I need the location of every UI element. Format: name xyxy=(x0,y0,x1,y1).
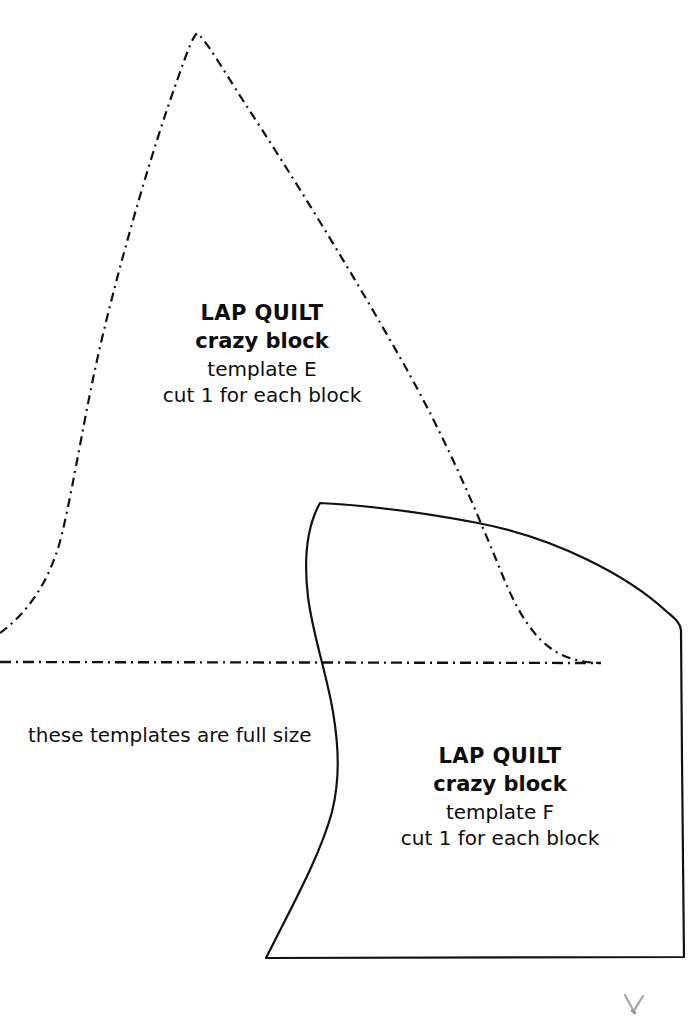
template-f-label-block: LAP QUILT crazy block template F cut 1 f… xyxy=(300,746,692,854)
checkmark-watermark-icon xyxy=(622,992,646,1016)
template-f-id-line: template F xyxy=(300,802,692,828)
template-sheet: LAP QUILT crazy block template E cut 1 f… xyxy=(0,0,692,1018)
template-e-title: LAP QUILT xyxy=(62,303,462,331)
template-e-cut-line: cut 1 for each block xyxy=(62,385,462,411)
template-f-title: LAP QUILT xyxy=(300,746,692,774)
template-e-id-line: template E xyxy=(62,359,462,385)
template-outlines-layer xyxy=(0,0,692,1018)
template-e-label-block: LAP QUILT crazy block template E cut 1 f… xyxy=(62,303,462,411)
template-e-baseline xyxy=(0,662,601,663)
template-f-outline xyxy=(266,503,684,958)
template-f-cut-line: cut 1 for each block xyxy=(300,828,692,854)
full-size-note: these templates are full size xyxy=(28,723,312,747)
template-f-subtitle: crazy block xyxy=(300,774,692,802)
template-e-subtitle: crazy block xyxy=(62,331,462,359)
